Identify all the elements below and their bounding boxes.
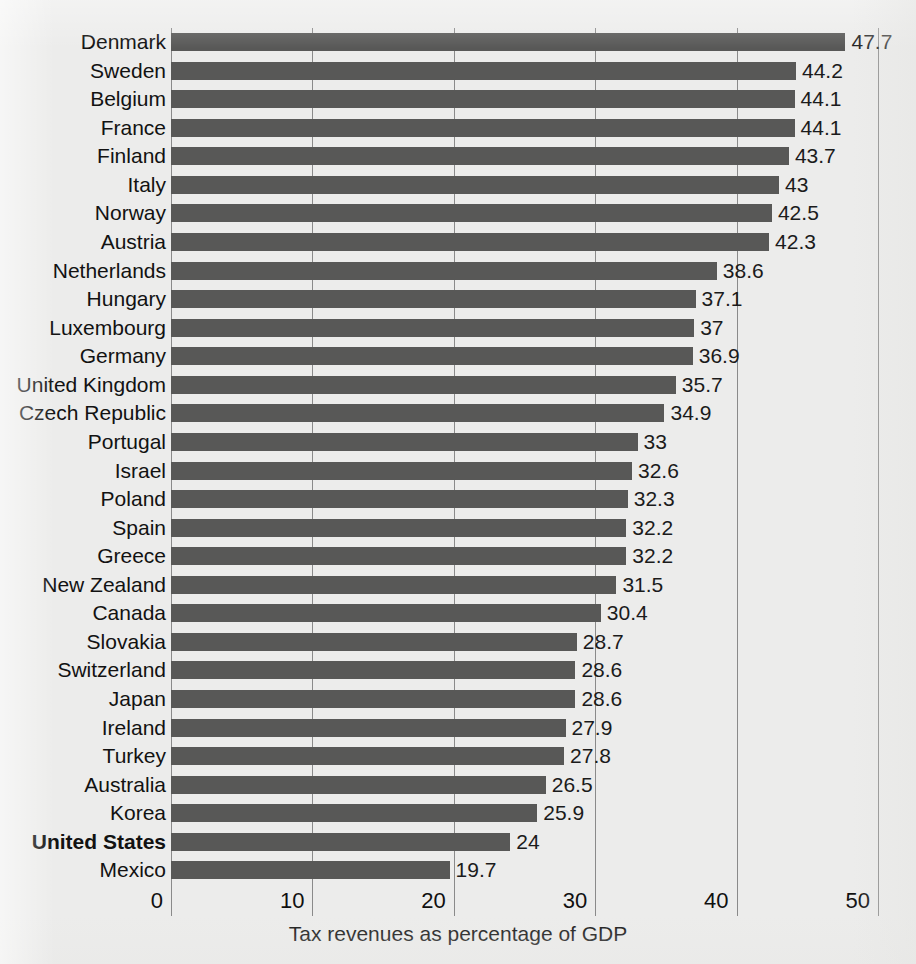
bar-value-label: 43 <box>779 172 808 198</box>
bar-value-label: 25.9 <box>537 800 584 826</box>
bar-value-label: 36.9 <box>693 343 740 369</box>
bar-row: 28.7 <box>171 628 878 657</box>
bar <box>171 633 577 651</box>
category-label: Mexico <box>0 856 166 885</box>
bar-value-label: 24 <box>510 829 539 855</box>
bar-row: 47.7 <box>171 28 878 57</box>
bar-row: 34.9 <box>171 399 878 428</box>
bar <box>171 433 638 451</box>
category-label: Korea <box>0 799 166 828</box>
category-label: Germany <box>0 342 166 371</box>
bar-value-label: 35.7 <box>676 372 723 398</box>
bar-row: 33 <box>171 428 878 457</box>
bar <box>171 547 626 565</box>
bar <box>171 90 795 108</box>
x-tick-line-0 <box>171 880 172 916</box>
bar-row: 27.9 <box>171 714 878 743</box>
bar-value-label: 32.3 <box>628 486 675 512</box>
bar-row: 43 <box>171 171 878 200</box>
bar-value-label: 32.6 <box>632 458 679 484</box>
bar-rows: 47.744.244.144.143.74342.542.338.637.137… <box>171 28 878 885</box>
bar <box>171 490 628 508</box>
bar-value-label: 44.1 <box>795 115 842 141</box>
bar-row: 19.7 <box>171 856 878 885</box>
x-tick-line-40 <box>737 880 738 916</box>
bar-value-label: 33 <box>638 429 667 455</box>
bar <box>171 462 632 480</box>
category-label: Portugal <box>0 428 166 457</box>
bar <box>171 376 676 394</box>
bar-value-label: 37 <box>694 315 723 341</box>
category-axis-labels: DenmarkSwedenBelgiumFranceFinlandItalyNo… <box>0 28 166 885</box>
category-label: Spain <box>0 514 166 543</box>
bar <box>171 519 626 537</box>
x-tick-label: 0 <box>151 886 171 916</box>
bar-value-label: 32.2 <box>626 515 673 541</box>
category-label: Slovakia <box>0 628 166 657</box>
bar-row: 42.5 <box>171 199 878 228</box>
bar <box>171 262 717 280</box>
bar <box>171 804 537 822</box>
bar-value-label: 27.8 <box>564 743 611 769</box>
gridline-50 <box>878 28 879 885</box>
bar <box>171 661 575 679</box>
category-label: Sweden <box>0 57 166 86</box>
category-label: Finland <box>0 142 166 171</box>
category-label: Canada <box>0 599 166 628</box>
category-label: Australia <box>0 771 166 800</box>
bar-row: 28.6 <box>171 685 878 714</box>
bar-value-label: 37.1 <box>696 286 743 312</box>
x-tick-label: 20 <box>421 886 453 916</box>
category-label: France <box>0 114 166 143</box>
x-tick-line-20 <box>454 880 455 916</box>
bar <box>171 861 450 879</box>
category-label: Greece <box>0 542 166 571</box>
bar-value-label: 47.7 <box>845 29 892 55</box>
bar <box>171 204 772 222</box>
bar <box>171 33 845 51</box>
bar <box>171 604 601 622</box>
category-label: Poland <box>0 485 166 514</box>
bar <box>171 747 564 765</box>
bar-value-label: 30.4 <box>601 600 648 626</box>
category-label: Norway <box>0 199 166 228</box>
category-label: United States <box>0 828 166 857</box>
category-label: New Zealand <box>0 571 166 600</box>
x-axis: 01020304050 <box>171 886 878 920</box>
bar-row: 44.1 <box>171 114 878 143</box>
bar <box>171 690 575 708</box>
category-label: United Kingdom <box>0 371 166 400</box>
bar-row: 31.5 <box>171 571 878 600</box>
bar <box>171 233 769 251</box>
bar-value-label: 44.2 <box>796 58 843 84</box>
bar-row: 26.5 <box>171 771 878 800</box>
category-label: Italy <box>0 171 166 200</box>
x-axis-title: Tax revenues as percentage of GDP <box>0 922 916 946</box>
bar-value-label: 38.6 <box>717 258 764 284</box>
category-label: Austria <box>0 228 166 257</box>
chart-page: DenmarkSwedenBelgiumFranceFinlandItalyNo… <box>0 0 916 964</box>
category-label: Luxembourg <box>0 314 166 343</box>
bar-value-label: 42.5 <box>772 200 819 226</box>
x-tick-label: 50 <box>846 886 878 916</box>
category-label: Turkey <box>0 742 166 771</box>
category-label: Switzerland <box>0 656 166 685</box>
bar-value-label: 26.5 <box>546 772 593 798</box>
bar-row: 32.6 <box>171 457 878 486</box>
bar-row: 37.1 <box>171 285 878 314</box>
bar-value-label: 32.2 <box>626 543 673 569</box>
bar-row: 44.1 <box>171 85 878 114</box>
bar <box>171 176 779 194</box>
bar-row: 27.8 <box>171 742 878 771</box>
bar <box>171 290 696 308</box>
x-tick-label: 40 <box>704 886 736 916</box>
bar-row: 36.9 <box>171 342 878 371</box>
bar <box>171 833 510 851</box>
bar-value-label: 31.5 <box>616 572 663 598</box>
category-label: Belgium <box>0 85 166 114</box>
x-tick-label: 10 <box>280 886 312 916</box>
bar <box>171 576 616 594</box>
bar-value-label: 43.7 <box>789 143 836 169</box>
bar-value-label: 28.6 <box>575 686 622 712</box>
bar-value-label: 19.7 <box>450 857 497 883</box>
